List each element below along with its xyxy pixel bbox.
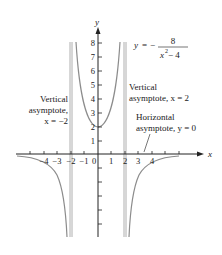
svg-text:asymptote,: asymptote, — [29, 105, 68, 115]
x-tick-label: −2 — [66, 156, 75, 166]
y-tick-label: 1 — [91, 136, 95, 146]
x-tick-label: 2 — [123, 156, 127, 166]
annotation-horizontal-asymptote: Horizontal asymptote, y = 0 — [136, 112, 197, 152]
svg-text:8: 8 — [171, 36, 176, 46]
svg-text:Horizontal: Horizontal — [136, 112, 175, 122]
svg-text:x = −2: x = −2 — [44, 116, 68, 126]
x-tick-label: 3 — [136, 156, 140, 166]
annotation-pointer-line — [144, 134, 150, 152]
x-tick-label: 1 — [109, 156, 113, 166]
vertical-asymptote-right — [124, 42, 126, 237]
y-tick-label: 3 — [91, 108, 95, 118]
svg-text:asymptote, y = 0: asymptote, y = 0 — [136, 123, 197, 133]
svg-text:=: = — [142, 40, 147, 50]
svg-text:x: x — [159, 50, 164, 60]
x-tick-label: −1 — [79, 156, 88, 166]
svg-text:Vertical: Vertical — [129, 82, 157, 92]
x-axis-label: x — [207, 149, 212, 159]
y-tick-label: 5 — [91, 80, 95, 90]
svg-text:− 4: − 4 — [168, 50, 180, 60]
y-axis-label: y — [94, 17, 99, 27]
y-tick-label: 4 — [91, 94, 96, 104]
curve-branch-right — [129, 156, 179, 237]
annotation-vertical-asymptote-right: Vertical asymptote, x = 2 — [129, 82, 189, 103]
vertical-asymptote-left — [70, 42, 72, 237]
y-tick-label: 6 — [91, 66, 95, 76]
y-tick-label: 8 — [91, 38, 95, 48]
y-tick-label: 2 — [91, 122, 95, 132]
y-axis — [96, 27, 103, 237]
curve-branch-left — [17, 156, 67, 237]
annotation-vertical-asymptote-left: Vertical asymptote, x = −2 — [29, 94, 69, 126]
svg-text:y: y — [133, 40, 138, 50]
svg-text:asymptote, x = 2: asymptote, x = 2 — [129, 93, 189, 103]
x-tick-label: −4 — [39, 156, 49, 166]
x-tick-label: 0 — [92, 156, 96, 166]
x-tick-label: −3 — [52, 156, 61, 166]
function-graph: x −4 −3 −2 −1 0 1 2 3 4 y — [0, 0, 222, 255]
equation-label: y = − 8 x 2 − 4 — [133, 36, 188, 60]
svg-text:Vertical: Vertical — [40, 94, 68, 104]
y-tick-label: 7 — [91, 52, 95, 62]
svg-text:−: − — [150, 40, 155, 50]
